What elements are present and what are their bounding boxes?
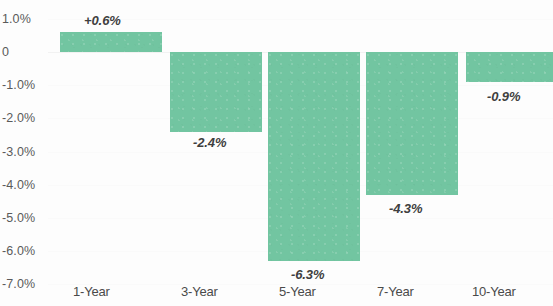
- x-axis-tick-label: 3-Year: [181, 285, 218, 298]
- bar-texture: [170, 52, 262, 132]
- y-axis-tick-label: 0: [2, 46, 46, 59]
- bar: [268, 52, 360, 261]
- gridline: [48, 19, 553, 20]
- bar-texture: [466, 52, 553, 82]
- y-axis-tick-label: -3.0%: [2, 146, 46, 159]
- y-axis-tick-label: -6.0%: [2, 245, 46, 258]
- bar-value-label: -4.3%: [389, 202, 422, 215]
- bar-value-label: -2.4%: [193, 136, 226, 149]
- bar-texture: [268, 52, 360, 261]
- bar-value-label: -6.3%: [291, 268, 324, 281]
- y-axis-tick-label: -4.0%: [2, 179, 46, 192]
- bar-value-label: -0.9%: [487, 90, 520, 103]
- bar-texture: [366, 52, 458, 195]
- bar: [60, 32, 162, 52]
- y-axis-tick-label: -5.0%: [2, 212, 46, 225]
- bar-value-label: +0.6%: [84, 14, 121, 27]
- bar-chart: 1.0%0-1.0%-2.0%-3.0%-4.0%-5.0%-6.0%-7.0%…: [0, 0, 553, 306]
- x-axis-tick-label: 1-Year: [73, 285, 110, 298]
- bar-texture: [60, 32, 162, 52]
- y-axis-tick-label: -1.0%: [2, 79, 46, 92]
- y-axis-tick-label: -2.0%: [2, 112, 46, 125]
- x-axis-tick-label: 5-Year: [279, 285, 316, 298]
- plot-area: 1.0%0-1.0%-2.0%-3.0%-4.0%-5.0%-6.0%-7.0%…: [0, 0, 553, 306]
- x-axis-tick-label: 10-Year: [472, 285, 516, 298]
- bar: [466, 52, 553, 82]
- bar: [170, 52, 262, 132]
- y-axis-tick-label: -7.0%: [2, 278, 46, 291]
- x-axis-tick-label: 7-Year: [377, 285, 414, 298]
- y-axis-tick-label: 1.0%: [2, 13, 46, 26]
- bar: [366, 52, 458, 195]
